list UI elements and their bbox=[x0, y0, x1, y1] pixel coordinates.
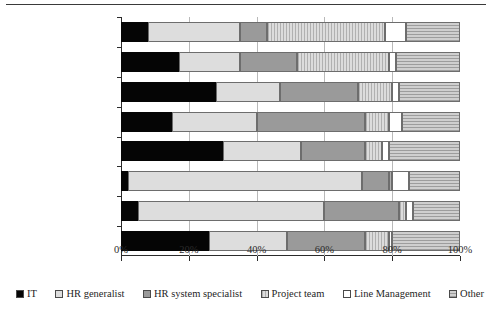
bar-segment[interactable] bbox=[297, 52, 389, 72]
bar-segment[interactable] bbox=[223, 141, 301, 161]
legend-label: HR generalist bbox=[66, 288, 124, 299]
bar-segment[interactable] bbox=[324, 201, 399, 221]
y-axis-tick bbox=[117, 166, 122, 167]
bar-segment[interactable] bbox=[121, 52, 179, 72]
bar-segment[interactable] bbox=[389, 112, 403, 132]
plot-area bbox=[121, 17, 460, 256]
legend-swatch-icon bbox=[343, 290, 351, 298]
x-axis-tick-label: 100% bbox=[448, 244, 473, 255]
bar-segment[interactable] bbox=[240, 22, 267, 42]
legend-label: Line Management bbox=[354, 288, 431, 299]
bar-segment[interactable] bbox=[121, 22, 148, 42]
bar-segment[interactable] bbox=[121, 112, 172, 132]
bar-segment[interactable] bbox=[148, 22, 240, 42]
bar-segment[interactable] bbox=[121, 171, 128, 191]
bar-segment[interactable] bbox=[179, 52, 240, 72]
bar-row[interactable] bbox=[121, 82, 460, 102]
bar-segment[interactable] bbox=[392, 82, 399, 102]
bar-row[interactable] bbox=[121, 201, 460, 221]
header-divider bbox=[6, 4, 486, 5]
bar-segment[interactable] bbox=[399, 201, 406, 221]
bar-segment[interactable] bbox=[216, 82, 280, 102]
legend-label: Project team bbox=[272, 288, 325, 299]
bar-segment[interactable] bbox=[399, 82, 460, 102]
bar-segment[interactable] bbox=[280, 82, 358, 102]
legend-item[interactable]: HR generalist bbox=[55, 288, 124, 299]
x-axis-tick bbox=[324, 256, 325, 261]
legend-item[interactable]: Line Management bbox=[343, 288, 431, 299]
bar-segment[interactable] bbox=[121, 141, 223, 161]
bar-row[interactable] bbox=[121, 231, 460, 251]
bar-segment[interactable] bbox=[121, 82, 216, 102]
bar-segment[interactable] bbox=[365, 141, 382, 161]
x-axis-tick bbox=[392, 256, 393, 261]
x-axis-tick bbox=[121, 256, 122, 261]
x-axis-tick bbox=[257, 256, 258, 261]
legend-swatch-icon bbox=[261, 290, 269, 298]
bar-segment[interactable] bbox=[413, 201, 460, 221]
bar-segment[interactable] bbox=[172, 112, 257, 132]
y-axis-tick bbox=[117, 47, 122, 48]
legend-item[interactable]: Project team bbox=[261, 288, 325, 299]
bar-segment[interactable] bbox=[406, 22, 460, 42]
x-axis-tick-label: 20% bbox=[179, 244, 198, 255]
bar-row[interactable] bbox=[121, 171, 460, 191]
chart-legend: ITHR generalistHR system specialistProje… bbox=[16, 288, 484, 299]
bar-segment[interactable] bbox=[362, 171, 389, 191]
bar-row[interactable] bbox=[121, 112, 460, 132]
legend-label: HR system specialist bbox=[154, 288, 242, 299]
legend-swatch-icon bbox=[143, 290, 151, 298]
y-axis-tick bbox=[117, 226, 122, 227]
bar-segment[interactable] bbox=[121, 201, 138, 221]
legend-label: IT bbox=[27, 288, 37, 299]
legend-swatch-icon bbox=[55, 290, 63, 298]
y-axis-tick bbox=[117, 137, 122, 138]
legend-item[interactable]: HR system specialist bbox=[143, 288, 242, 299]
bar-segment[interactable] bbox=[301, 141, 365, 161]
legend-swatch-icon bbox=[16, 290, 24, 298]
x-axis-tick-label: 80% bbox=[383, 244, 402, 255]
bar-segment[interactable] bbox=[382, 141, 389, 161]
bar-segment[interactable] bbox=[392, 171, 409, 191]
x-axis-tick-label: 0% bbox=[114, 244, 128, 255]
bar-segment[interactable] bbox=[406, 201, 413, 221]
y-axis-tick bbox=[117, 107, 122, 108]
bar-segment[interactable] bbox=[409, 171, 460, 191]
bar-segment[interactable] bbox=[267, 22, 386, 42]
bar-segment[interactable] bbox=[365, 112, 389, 132]
legend-item[interactable]: IT bbox=[16, 288, 37, 299]
bar-row[interactable] bbox=[121, 141, 460, 161]
bar-segment[interactable] bbox=[385, 22, 405, 42]
x-axis-tick-label: 60% bbox=[315, 244, 334, 255]
y-axis-tick bbox=[117, 17, 122, 18]
bar-segment[interactable] bbox=[138, 201, 324, 221]
stacked-bar-chart: Decision to purchaseImplementationLiaiso… bbox=[0, 0, 492, 315]
x-axis-tick bbox=[189, 256, 190, 261]
x-axis-tick-label: 40% bbox=[247, 244, 266, 255]
bar-segment[interactable] bbox=[396, 52, 460, 72]
bar-segment[interactable] bbox=[257, 112, 365, 132]
bar-segment[interactable] bbox=[240, 52, 298, 72]
bar-segment[interactable] bbox=[402, 112, 460, 132]
bar-segment[interactable] bbox=[389, 52, 396, 72]
legend-label: Other bbox=[460, 288, 484, 299]
bar-row[interactable] bbox=[121, 22, 460, 42]
bar-segment[interactable] bbox=[389, 141, 460, 161]
bar-segment[interactable] bbox=[128, 171, 362, 191]
y-axis-tick bbox=[117, 196, 122, 197]
y-axis-tick bbox=[117, 77, 122, 78]
legend-item[interactable]: Other bbox=[449, 288, 484, 299]
bar-segment[interactable] bbox=[358, 82, 392, 102]
bar-row[interactable] bbox=[121, 52, 460, 72]
x-axis-tick bbox=[460, 256, 461, 261]
legend-swatch-icon bbox=[449, 290, 457, 298]
